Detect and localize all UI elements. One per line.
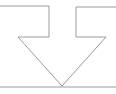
arrow-diagram — [0, 0, 116, 94]
down-arrow-icon — [0, 6, 116, 86]
